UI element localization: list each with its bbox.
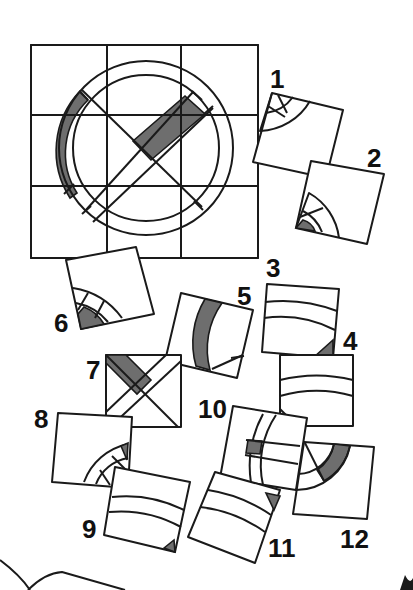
bottom-border-decoration: [0, 560, 413, 590]
piece-label-7: 7: [86, 355, 100, 385]
piece-11[interactable]: [188, 472, 280, 563]
target-grid: [31, 45, 258, 258]
piece-label-10: 10: [198, 394, 227, 424]
piece-9[interactable]: [104, 467, 190, 552]
piece-label-2: 2: [367, 143, 381, 173]
piece-label-8: 8: [34, 404, 48, 434]
puzzle-canvas: 1 2 6 5 3 4: [0, 0, 413, 590]
piece-6[interactable]: [66, 247, 154, 329]
piece-label-5: 5: [237, 281, 251, 311]
piece-label-1: 1: [270, 64, 284, 94]
piece-label-9: 9: [82, 514, 96, 544]
piece-label-4: 4: [343, 326, 358, 356]
piece-label-6: 6: [54, 308, 68, 338]
piece-label-12: 12: [340, 524, 369, 554]
piece-2[interactable]: [296, 161, 384, 244]
piece-label-11: 11: [268, 533, 296, 563]
piece-label-3: 3: [266, 253, 280, 283]
piece-12[interactable]: [293, 442, 374, 519]
piece-3[interactable]: [262, 284, 339, 358]
